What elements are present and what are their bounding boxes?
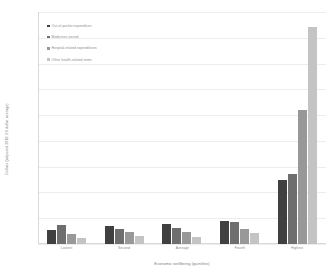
bar[interactable] (278, 180, 287, 244)
bar[interactable] (172, 228, 181, 244)
bar-group (220, 12, 259, 244)
bar-chart: Dollars (adjusted 2018 US dollar average… (0, 0, 332, 278)
legend-item[interactable]: Medicines served (47, 35, 97, 39)
bar[interactable] (77, 238, 86, 244)
bar[interactable] (220, 221, 229, 244)
bar[interactable] (240, 229, 249, 244)
bar[interactable] (230, 222, 239, 244)
bar[interactable] (135, 236, 144, 244)
legend-item[interactable]: Out-of-pocket expenditure (47, 24, 97, 28)
legend-item[interactable]: Hospital-related expenditures (47, 46, 97, 50)
y-axis-title-wrapper: Dollars (adjusted 2018 US dollar average… (2, 23, 12, 255)
legend-swatch-icon (47, 58, 50, 61)
bar[interactable] (192, 237, 201, 244)
bar[interactable] (125, 232, 134, 244)
x-axis-tick-label: Highest (291, 246, 303, 254)
legend-swatch-icon (47, 47, 50, 50)
gridline (38, 244, 326, 245)
bar[interactable] (250, 233, 259, 244)
x-axis-tick-label: Lowest (61, 246, 72, 254)
bar[interactable] (298, 110, 307, 244)
y-axis-title: Dollars (adjusted 2018 US dollar average… (5, 103, 9, 174)
bar[interactable] (162, 224, 171, 244)
bar[interactable] (288, 174, 297, 244)
legend-label: Medicines served (52, 35, 79, 39)
bar[interactable] (115, 229, 124, 244)
legend-swatch-icon (47, 36, 50, 39)
legend-label: Hospital-related expenditures (52, 46, 97, 50)
bar-group (278, 12, 317, 244)
legend-item[interactable]: Other health-related items (47, 58, 97, 62)
x-axis-tick-labels: LowestSecondAverageFourthHighest (38, 246, 326, 254)
bar[interactable] (47, 230, 56, 244)
bar[interactable] (182, 232, 191, 244)
x-axis-tick-label: Second (118, 246, 130, 254)
legend-swatch-icon (47, 25, 50, 28)
bar[interactable] (67, 234, 76, 244)
bar-group (105, 12, 144, 244)
bar[interactable] (57, 225, 66, 244)
legend-label: Other health-related items (52, 58, 92, 62)
x-axis-tick-label: Fourth (235, 246, 245, 254)
x-axis-tick-label: Average (176, 246, 189, 254)
legend-label: Out-of-pocket expenditure (52, 24, 92, 28)
chart-legend: Out-of-pocket expenditureMedicines serve… (47, 24, 97, 62)
bar[interactable] (308, 27, 317, 244)
bar[interactable] (105, 226, 114, 244)
bar-group (162, 12, 201, 244)
x-axis-title: Economic wellbeing (quintiles) (38, 262, 326, 266)
